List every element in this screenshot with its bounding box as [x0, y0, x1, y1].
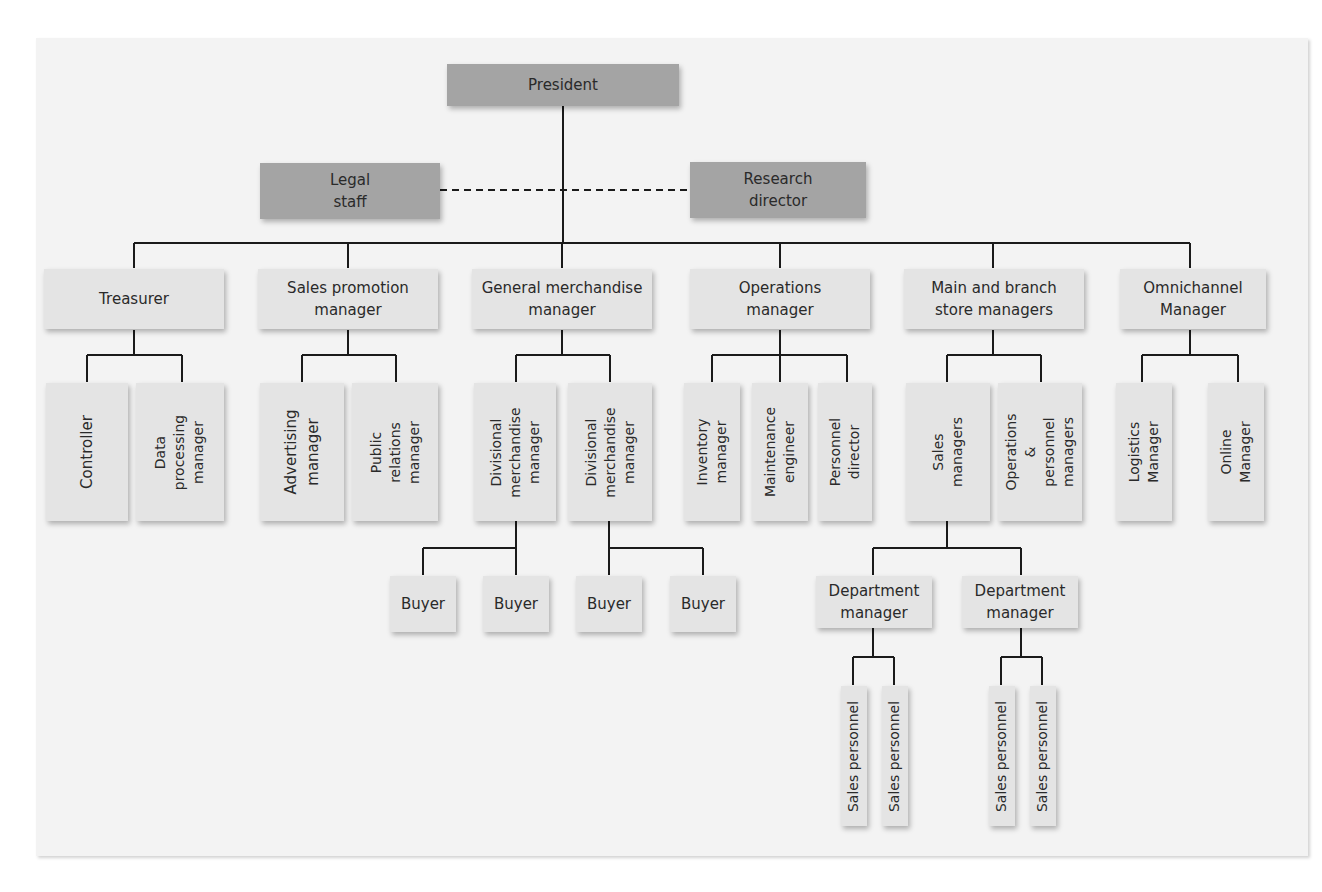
operations-personnel-managers-label: Operations & personnel managers — [1002, 410, 1078, 494]
legal-staff-box: Legal staff — [260, 163, 440, 219]
sales-personnel-box-2: Sales personnel — [882, 686, 908, 826]
public-relations-manager-box: Public relations manager — [352, 383, 438, 521]
sales-personnel-label-3: Sales personnel — [993, 700, 1012, 811]
controller-label: Controller — [76, 415, 98, 489]
logistics-manager-box: Logistics Manager — [1116, 383, 1172, 521]
personnel-director-box: Personnel director — [818, 383, 872, 521]
maintenance-engineer-label: Maintenance engineer — [761, 407, 799, 497]
department-manager-label-2: Department manager — [975, 580, 1066, 624]
online-manager-box: Online Manager — [1208, 383, 1264, 521]
maintenance-engineer-box: Maintenance engineer — [752, 383, 808, 521]
treasurer-box: Treasurer — [44, 269, 224, 329]
sales-managers-label: Sales managers — [929, 417, 967, 487]
sales-personnel-box-3: Sales personnel — [989, 686, 1015, 826]
sales-personnel-label-1: Sales personnel — [845, 700, 864, 811]
inventory-manager-box: Inventory manager — [684, 383, 740, 521]
sales-personnel-box-4: Sales personnel — [1030, 686, 1056, 826]
logistics-manager-label: Logistics Manager — [1125, 421, 1163, 482]
buyer-box-2: Buyer — [483, 576, 549, 632]
president-label: President — [528, 74, 598, 96]
online-manager-label: Online Manager — [1217, 421, 1255, 482]
buyer-label-2: Buyer — [494, 593, 538, 615]
data-processing-manager-label: Data processing manager — [151, 414, 208, 489]
divisional-merchandise-manager-box-1: Divisional merchandise manager — [474, 383, 556, 521]
omnichannel-manager-box: Omnichannel Manager — [1120, 269, 1266, 329]
data-processing-manager-box: Data processing manager — [136, 383, 224, 521]
divisional-merchandise-manager-label-1: Divisional merchandise manager — [487, 407, 544, 497]
treasurer-label: Treasurer — [99, 288, 169, 310]
president-box: President — [447, 64, 679, 106]
operations-manager-label: Operations manager — [739, 277, 821, 321]
general-merchandise-manager-label: General merchandise manager — [482, 277, 643, 321]
operations-personnel-managers-box: Operations & personnel managers — [998, 383, 1082, 521]
research-director-label: Research director — [744, 168, 813, 212]
buyer-box-3: Buyer — [576, 576, 642, 632]
divisional-merchandise-manager-label-2: Divisional merchandise manager — [582, 407, 639, 497]
research-director-box: Research director — [690, 162, 866, 218]
divisional-merchandise-manager-box-2: Divisional merchandise manager — [568, 383, 652, 521]
sales-personnel-label-2: Sales personnel — [886, 700, 905, 811]
controller-box: Controller — [46, 383, 128, 521]
buyer-label-3: Buyer — [587, 593, 631, 615]
sales-personnel-label-4: Sales personnel — [1034, 700, 1053, 811]
store-managers-label: Main and branch store managers — [931, 277, 1057, 321]
buyer-label-4: Buyer — [681, 593, 725, 615]
advertising-manager-label: Advertising manager — [280, 410, 324, 495]
sales-managers-box: Sales managers — [906, 383, 990, 521]
department-manager-box-2: Department manager — [962, 576, 1078, 628]
department-manager-box-1: Department manager — [816, 576, 932, 628]
advertising-manager-box: Advertising manager — [260, 383, 344, 521]
department-manager-label-1: Department manager — [829, 580, 920, 624]
public-relations-manager-label: Public relations manager — [367, 421, 424, 484]
personnel-director-label: Personnel director — [826, 418, 864, 486]
buyer-label-1: Buyer — [401, 593, 445, 615]
sales-promotion-manager-label: Sales promotion manager — [287, 277, 409, 321]
sales-personnel-box-1: Sales personnel — [841, 686, 867, 826]
sales-promotion-manager-box: Sales promotion manager — [258, 269, 438, 329]
operations-manager-box: Operations manager — [690, 269, 870, 329]
general-merchandise-manager-box: General merchandise manager — [472, 269, 652, 329]
buyer-box-4: Buyer — [670, 576, 736, 632]
inventory-manager-label: Inventory manager — [693, 419, 731, 486]
store-managers-box: Main and branch store managers — [904, 269, 1084, 329]
buyer-box-1: Buyer — [390, 576, 456, 632]
legal-staff-label: Legal staff — [330, 169, 370, 213]
omnichannel-manager-label: Omnichannel Manager — [1143, 277, 1242, 321]
